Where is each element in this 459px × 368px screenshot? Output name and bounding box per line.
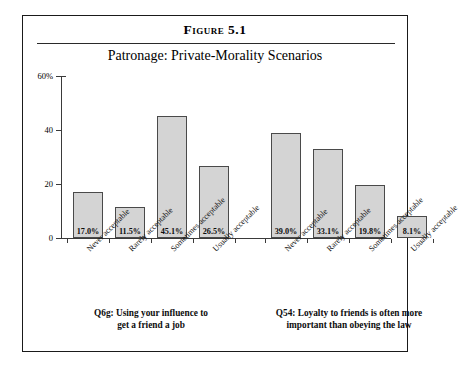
x-axis-tick xyxy=(109,239,110,243)
group-caption-line: Q54: Loyalty to friends is often more xyxy=(249,308,449,320)
x-axis-tick xyxy=(193,239,194,243)
x-axis-tick xyxy=(391,239,392,243)
figure-frame: Figure 5.1 Patronage: Private-Morality S… xyxy=(22,15,408,352)
y-axis-line xyxy=(61,76,62,239)
x-axis-tick xyxy=(349,239,350,243)
x-axis-tick xyxy=(433,239,434,243)
group-caption-line: Q6g: Using your influence to xyxy=(51,308,251,320)
bar-chart-plot: 0204060% 17.0%11.5%45.1%26.5%39.0%33.1%1… xyxy=(23,16,409,353)
group-caption: Q54: Loyalty to friends is often moreimp… xyxy=(249,308,449,332)
x-axis-tick xyxy=(265,239,266,243)
x-axis-tick xyxy=(151,239,152,243)
y-axis-tick-label: 40 xyxy=(23,125,53,135)
x-axis-tick xyxy=(307,239,308,243)
group-caption: Q6g: Using your influence toget a friend… xyxy=(51,308,251,332)
y-axis-tick-label: 60% xyxy=(23,71,53,81)
y-axis-tick-label: 0 xyxy=(23,233,53,243)
y-axis-tick xyxy=(56,238,61,239)
y-axis-tick-label: 20 xyxy=(23,179,53,189)
y-axis-tick xyxy=(56,184,61,185)
y-axis-top-tick xyxy=(61,76,66,77)
group-caption-line: important than obeying the law xyxy=(249,320,449,332)
x-axis-tick xyxy=(235,239,236,243)
y-axis-tick xyxy=(56,130,61,131)
x-axis-tick xyxy=(67,239,68,243)
y-axis-tick xyxy=(56,76,61,77)
group-caption-line: get a friend a job xyxy=(51,320,251,332)
bar xyxy=(271,133,301,238)
